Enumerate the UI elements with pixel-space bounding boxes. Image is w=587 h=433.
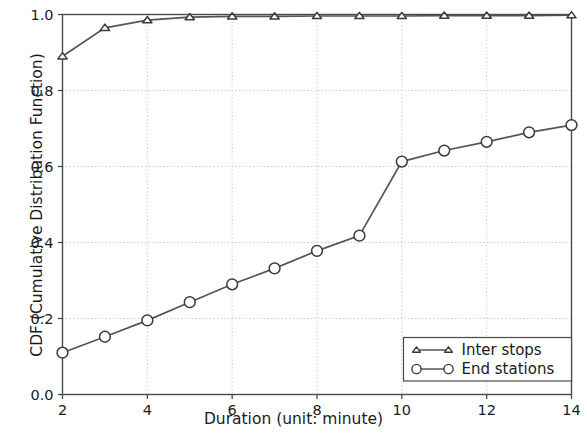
data-point-marker bbox=[100, 331, 111, 342]
data-point-marker bbox=[566, 120, 577, 131]
legend-label: Inter stops bbox=[462, 341, 542, 359]
circle-marker-icon bbox=[444, 364, 453, 373]
data-point-marker bbox=[312, 245, 323, 256]
y-axis-label-wrapper: CDF (Cumulative Distribution Function) bbox=[26, 0, 48, 415]
series-line bbox=[63, 15, 572, 56]
data-point-marker bbox=[269, 263, 280, 274]
data-point-marker bbox=[228, 13, 237, 19]
data-point-marker bbox=[524, 12, 533, 18]
data-point-marker bbox=[482, 12, 491, 18]
data-point-marker bbox=[396, 156, 407, 167]
data-point-marker bbox=[440, 12, 449, 18]
data-point-marker bbox=[57, 347, 68, 358]
data-point-marker bbox=[270, 13, 279, 19]
series-inter-stops bbox=[58, 12, 576, 59]
circle-marker-icon bbox=[412, 364, 421, 373]
chart-legend[interactable]: Inter stopsEnd stations bbox=[404, 338, 572, 382]
data-point-marker bbox=[524, 127, 535, 138]
data-point-marker bbox=[481, 136, 492, 147]
data-point-marker bbox=[397, 12, 406, 18]
data-point-marker bbox=[142, 315, 153, 326]
data-point-marker bbox=[312, 12, 321, 18]
data-point-marker bbox=[354, 230, 365, 241]
chart-plot-svg: 2468101214 0.00.20.40.60.81.0 Inter stop… bbox=[0, 0, 587, 433]
data-point-marker bbox=[567, 12, 576, 18]
x-axis-label: Duration (unit: minute) bbox=[0, 410, 587, 428]
data-point-marker bbox=[439, 145, 450, 156]
data-point-marker bbox=[227, 279, 238, 290]
data-point-marker bbox=[355, 12, 364, 18]
data-point-marker bbox=[100, 24, 109, 30]
legend-label: End stations bbox=[462, 360, 555, 378]
y-axis-label: CDF (Cumulative Distribution Function) bbox=[26, 0, 48, 415]
cdf-chart-figure: 2468101214 0.00.20.40.60.81.0 Inter stop… bbox=[0, 0, 587, 433]
data-point-marker bbox=[143, 17, 152, 23]
data-point-marker bbox=[184, 297, 195, 308]
